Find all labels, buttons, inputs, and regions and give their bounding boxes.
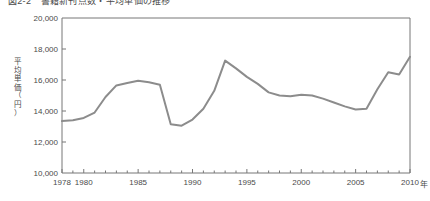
y-tick-label: 16,000 xyxy=(34,76,58,85)
line-chart: 平均単価（円） 20,000 18,000 16,000 14,000 12,0… xyxy=(0,0,430,201)
data-series-line xyxy=(62,57,410,126)
x-tick-label: 2000 xyxy=(292,178,310,187)
x-axis-ticks xyxy=(62,169,410,173)
chart-canvas xyxy=(0,0,430,201)
x-tick-label: 2005 xyxy=(347,178,365,187)
plot-frame xyxy=(62,18,410,173)
x-tick-label: 1995 xyxy=(238,178,256,187)
x-tick-label: 1980 xyxy=(75,178,93,187)
y-tick-label: 14,000 xyxy=(34,107,58,116)
y-tick-label: 10,000 xyxy=(34,169,58,178)
x-tick-label: 2010 xyxy=(401,178,419,187)
y-tick-label: 12,000 xyxy=(34,138,58,147)
x-axis-unit-label: 年 xyxy=(420,178,428,189)
x-tick-label: 1990 xyxy=(184,178,202,187)
x-tick-label: 1985 xyxy=(129,178,147,187)
y-axis-ticks xyxy=(62,49,66,142)
x-tick-label: 1978 xyxy=(53,178,71,187)
y-tick-label: 18,000 xyxy=(34,45,58,54)
y-axis-tick-labels: 20,000 18,000 16,000 14,000 12,000 10,00… xyxy=(0,0,58,201)
y-tick-label: 20,000 xyxy=(34,14,58,23)
